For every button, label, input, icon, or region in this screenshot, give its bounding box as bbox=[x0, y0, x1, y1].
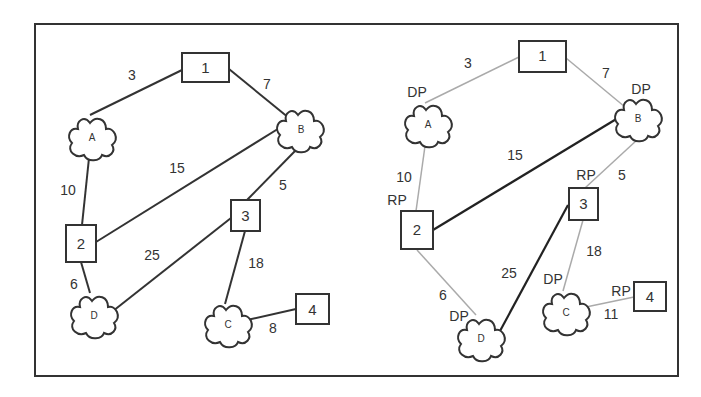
switch-label: 2 bbox=[413, 221, 421, 238]
network-label: C bbox=[562, 307, 569, 318]
switch-4[interactable]: 4 bbox=[634, 282, 666, 311]
edge-1-B bbox=[566, 58, 625, 107]
cost-label: 18 bbox=[248, 255, 264, 271]
network-cloud-B[interactable]: B bbox=[277, 111, 324, 153]
network-label: D bbox=[90, 310, 97, 321]
port-role-label: RP bbox=[611, 283, 630, 299]
cost-label: 11 bbox=[604, 306, 619, 322]
edge-D-3 bbox=[113, 218, 231, 311]
network-cloud-A[interactable]: A bbox=[405, 106, 452, 148]
left-panel: 1 2 3 4 A B C D bbox=[60, 53, 329, 347]
cost-label: 10 bbox=[396, 169, 412, 185]
edge-2-D bbox=[417, 250, 476, 315]
cost-label: 15 bbox=[169, 160, 185, 176]
cost-label: 5 bbox=[279, 177, 287, 193]
network-label: C bbox=[224, 319, 231, 330]
edge-1-B bbox=[229, 69, 289, 118]
network-label: B bbox=[298, 124, 305, 135]
cost-label: 6 bbox=[439, 287, 447, 303]
cost-label: 25 bbox=[501, 265, 517, 281]
cost-label: 3 bbox=[128, 67, 136, 83]
edge-A-2 bbox=[416, 146, 425, 211]
switch-label: 4 bbox=[646, 288, 654, 305]
network-label: A bbox=[425, 119, 432, 130]
network-cloud-C[interactable]: C bbox=[543, 294, 590, 336]
edge-B-3 bbox=[247, 150, 296, 200]
port-role-label: DP bbox=[631, 81, 650, 97]
spanning-tree-diagram: 1 2 3 4 A B C D bbox=[0, 0, 701, 397]
network-cloud-A[interactable]: A bbox=[69, 119, 116, 161]
switch-1[interactable]: 1 bbox=[519, 41, 566, 72]
network-label: B bbox=[635, 113, 642, 124]
switch-2[interactable]: 2 bbox=[66, 225, 96, 262]
edge-3-C bbox=[563, 220, 583, 291]
cost-label: 5 bbox=[618, 167, 626, 183]
switch-label: 1 bbox=[538, 47, 546, 64]
port-role-label: RP bbox=[387, 192, 406, 208]
cost-label: 10 bbox=[60, 182, 76, 198]
cost-label: 6 bbox=[70, 276, 78, 292]
cost-label: 3 bbox=[464, 55, 472, 71]
switch-1[interactable]: 1 bbox=[182, 53, 229, 82]
cost-label: 7 bbox=[602, 65, 610, 81]
switch-label: 3 bbox=[241, 207, 249, 224]
edge-2-D bbox=[81, 262, 90, 293]
switch-label: 2 bbox=[77, 235, 85, 252]
cost-label: 15 bbox=[507, 147, 523, 163]
cost-label: 18 bbox=[586, 243, 602, 259]
port-role-label: DP bbox=[407, 84, 426, 100]
port-role-label: DP bbox=[449, 308, 468, 324]
cost-label: 8 bbox=[269, 320, 277, 336]
switch-2[interactable]: 2 bbox=[401, 211, 433, 249]
port-role-label: DP bbox=[543, 271, 562, 287]
edge-3-C bbox=[225, 231, 245, 304]
switch-3[interactable]: 3 bbox=[569, 188, 598, 220]
switch-label: 4 bbox=[308, 301, 316, 318]
network-cloud-D[interactable]: D bbox=[71, 297, 118, 339]
cost-label: 7 bbox=[263, 76, 271, 92]
switch-3[interactable]: 3 bbox=[231, 200, 260, 231]
network-label: D bbox=[477, 333, 484, 344]
edge-1-A bbox=[425, 57, 519, 103]
right-panel: 1 2 3 4 A B C D bbox=[387, 41, 666, 361]
network-cloud-D[interactable]: D bbox=[458, 320, 505, 362]
edge-A-2 bbox=[82, 158, 89, 225]
network-cloud-B[interactable]: B bbox=[615, 100, 662, 142]
cost-label: 25 bbox=[144, 247, 160, 263]
port-role-label: RP bbox=[576, 167, 595, 183]
edge-C-4 bbox=[247, 309, 296, 320]
switch-label: 3 bbox=[579, 195, 587, 212]
edge-1-A bbox=[90, 70, 182, 115]
switch-4[interactable]: 4 bbox=[296, 294, 329, 324]
network-label: A bbox=[89, 132, 96, 143]
network-cloud-C[interactable]: C bbox=[205, 306, 252, 348]
switch-label: 1 bbox=[201, 59, 209, 76]
